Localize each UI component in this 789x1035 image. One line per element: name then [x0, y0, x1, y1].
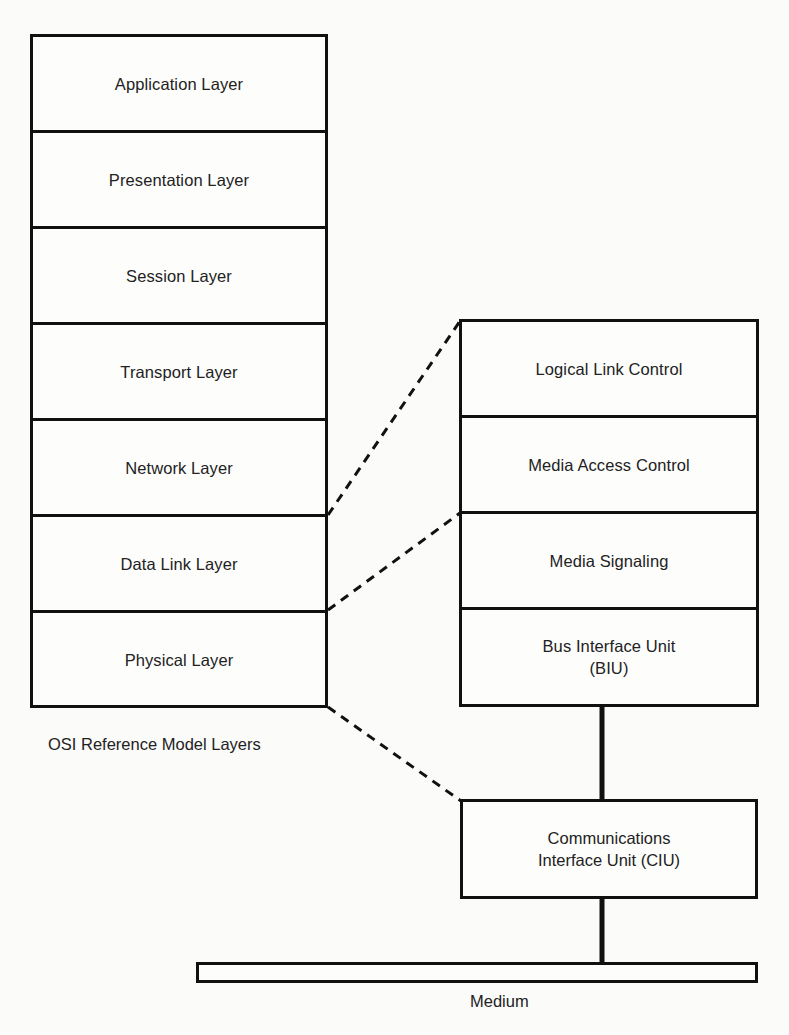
layer-label: Data Link Layer — [120, 553, 237, 575]
osi-stack-caption: OSI Reference Model Layers — [48, 735, 261, 754]
osi-layer-network: Network Layer — [33, 418, 325, 514]
layer-label: Application Layer — [115, 73, 243, 95]
osi-layer-presentation: Presentation Layer — [33, 130, 325, 226]
medium-bar — [196, 962, 758, 983]
lan-layer-logical-link-control: Logical Link Control — [462, 322, 756, 415]
lan-layer-media-access-control: Media Access Control — [462, 415, 756, 511]
ciu-box: Communications Interface Unit (CIU) — [460, 799, 758, 899]
layer-label: Media Access Control — [528, 454, 690, 476]
layer-label: Session Layer — [126, 265, 232, 287]
layer-label: Network Layer — [125, 457, 233, 479]
layer-label: Presentation Layer — [109, 169, 249, 191]
layer-label: Logical Link Control — [536, 358, 683, 380]
osi-layer-session: Session Layer — [33, 226, 325, 322]
medium-label: Medium — [470, 992, 529, 1011]
dashed-mapping-datalink-top — [328, 321, 460, 515]
osi-layer-physical: Physical Layer — [33, 610, 325, 706]
layer-label: Physical Layer — [125, 649, 234, 671]
osi-layer-application: Application Layer — [33, 37, 325, 130]
layer-label: Bus Interface Unit (BIU) — [543, 635, 676, 679]
dashed-mapping-datalink-bottom — [328, 513, 460, 610]
layer-label: Transport Layer — [120, 361, 237, 383]
dashed-mapping-physical-bottom — [328, 707, 461, 801]
osi-lan-diagram: Application Layer Presentation Layer Ses… — [0, 0, 789, 1035]
osi-layer-transport: Transport Layer — [33, 322, 325, 418]
osi-layer-stack: Application Layer Presentation Layer Ses… — [30, 34, 328, 708]
osi-layer-data-link: Data Link Layer — [33, 514, 325, 610]
lan-layer-bus-interface-unit: Bus Interface Unit (BIU) — [462, 607, 756, 703]
lan-sublayer-stack: Logical Link Control Media Access Contro… — [459, 319, 759, 707]
lan-layer-media-signaling: Media Signaling — [462, 511, 756, 607]
layer-label: Media Signaling — [550, 550, 669, 572]
ciu-label: Communications Interface Unit (CIU) — [538, 827, 680, 871]
